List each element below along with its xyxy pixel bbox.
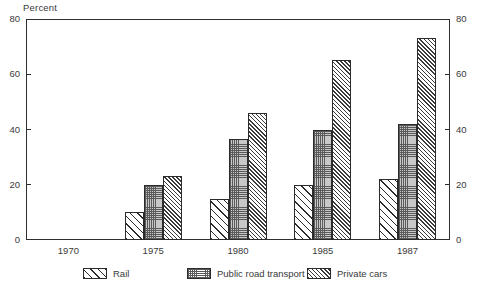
y-tick-label-right: 40 xyxy=(456,124,477,135)
legend-swatch-icon xyxy=(187,268,211,279)
bar-rail-1985 xyxy=(294,185,313,240)
y-tick-right xyxy=(445,74,450,75)
legend-label: Public road transport xyxy=(217,268,305,279)
bar-private-cars-1985 xyxy=(332,60,351,240)
y-tick-label: 0 xyxy=(0,234,20,245)
bar-public-road-transport-1985 xyxy=(313,130,332,241)
bar-public-road-transport-1980 xyxy=(229,139,248,240)
bar-private-cars-1975 xyxy=(163,176,182,240)
bar-rail-1975 xyxy=(125,212,144,240)
y-tick-left xyxy=(26,129,31,130)
y-tick-left xyxy=(26,184,31,185)
y-tick-right xyxy=(445,184,450,185)
bar-private-cars-1980 xyxy=(248,113,267,240)
legend-label: Rail xyxy=(113,268,129,279)
y-tick-label-right: 0 xyxy=(456,234,477,245)
x-tick-label: 1975 xyxy=(123,245,183,256)
y-tick-label-right: 20 xyxy=(456,179,477,190)
y-tick-label-right: 80 xyxy=(456,13,477,24)
y-axis-title: Percent xyxy=(23,2,57,13)
y-tick-label-right: 60 xyxy=(456,68,477,79)
legend-item-rail[interactable]: Rail xyxy=(83,268,129,279)
bar-rail-1980 xyxy=(210,199,229,240)
y-tick-label: 40 xyxy=(0,124,20,135)
chart-legend: RailPublic road transportPrivate cars xyxy=(0,268,477,284)
bar-rail-1987 xyxy=(379,179,398,240)
bar-public-road-transport-1975 xyxy=(144,185,163,240)
bar-chart: Percent 020406080 020406080 197019751980… xyxy=(0,0,477,294)
legend-label: Private cars xyxy=(337,268,387,279)
legend-swatch-icon xyxy=(307,268,331,279)
bar-private-cars-1987 xyxy=(417,38,436,240)
y-tick-label: 20 xyxy=(0,179,20,190)
x-tick-label: 1970 xyxy=(38,245,98,256)
x-tick-label: 1985 xyxy=(293,245,353,256)
y-tick-right xyxy=(445,129,450,130)
x-tick-label: 1987 xyxy=(378,245,438,256)
y-tick-label: 60 xyxy=(0,68,20,79)
bar-public-road-transport-1987 xyxy=(398,124,417,240)
legend-item-private-cars[interactable]: Private cars xyxy=(307,268,387,279)
x-tick-label: 1980 xyxy=(208,245,268,256)
legend-swatch-icon xyxy=(83,268,107,279)
y-tick-left xyxy=(26,74,31,75)
y-tick-label: 80 xyxy=(0,13,20,24)
legend-item-public-road-transport[interactable]: Public road transport xyxy=(187,268,305,279)
